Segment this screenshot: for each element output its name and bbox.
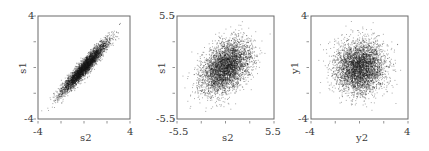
scatter-points (318, 22, 401, 111)
x-axis-label-3: y2 (356, 133, 368, 143)
scatter-panel-3: 4 -4 y1 -4 4 y2 (286, 0, 429, 151)
x-min-label-2: -5.5 (169, 127, 188, 137)
y-max-label-2: 5.5 (159, 11, 175, 21)
plot-area-1 (0, 0, 143, 151)
x-min-label-1: -4 (33, 127, 43, 137)
x-min-label-3: -4 (305, 127, 315, 137)
scatter-points (183, 22, 271, 112)
y-axis-label-3: y1 (290, 62, 300, 74)
scatter-points (41, 23, 121, 110)
scatter-panel-2: 5.5 -5.5 s1 -5.5 5.5 s2 (143, 0, 286, 151)
x-max-label-1: 4 (127, 127, 133, 137)
x-max-label-3: 4 (404, 127, 410, 137)
y-axis-label-2: s1 (157, 62, 167, 74)
y-max-label-1: 4 (28, 11, 34, 21)
y-min-label-1: -4 (24, 114, 34, 124)
x-axis-label-2: s2 (222, 133, 234, 143)
y-min-label-2: -5.5 (156, 114, 175, 124)
scatter-panel-1: 4 -4 s1 -4 4 s2 (0, 0, 143, 151)
x-axis-label-1: s2 (80, 133, 92, 143)
x-max-label-2: 5.5 (265, 127, 281, 137)
y-axis-label-1: s1 (18, 62, 28, 74)
y-max-label-3: 4 (301, 11, 307, 21)
y-min-label-3: -4 (298, 114, 308, 124)
